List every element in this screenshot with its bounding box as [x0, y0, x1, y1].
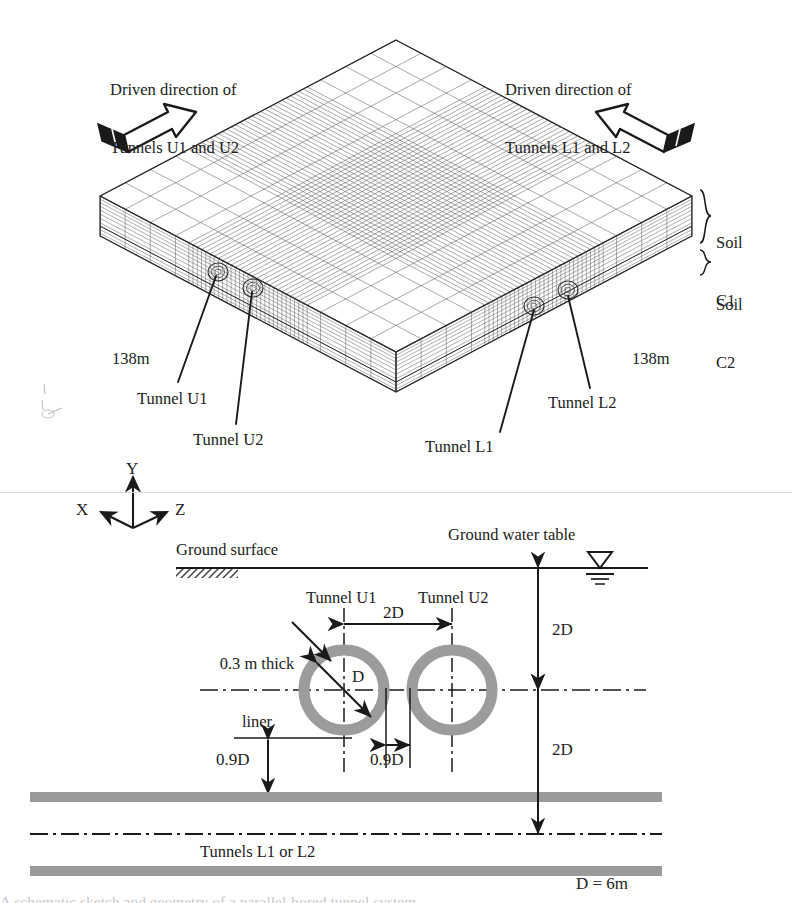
- soil-layer-c2-label: Soil C2: [716, 256, 743, 412]
- ground-surface-label: Ground surface: [176, 540, 278, 559]
- cross-section-view: [0, 500, 792, 900]
- depth-lower-2d-label: 2D: [552, 740, 573, 760]
- tunnel-u1-label: Tunnel U1: [306, 588, 376, 607]
- soil-layer-braces: [700, 190, 711, 275]
- dimension-138m-right: 138m: [632, 349, 670, 368]
- figure-caption: A schematic sketch and geometry of a par…: [0, 893, 792, 903]
- gap-0-9d-label: 0.9D: [370, 750, 404, 770]
- ground-surface-hatch: [176, 569, 238, 578]
- liner-note: 0.3 m thick liner: [198, 615, 316, 771]
- axis-label-y: Y: [126, 459, 138, 479]
- driven-left-line2: Tunnels U1 and U2: [110, 138, 239, 157]
- callout-tunnel-u1: Tunnel U1: [137, 389, 207, 408]
- callout-tunnel-u2: Tunnel U2: [193, 430, 263, 449]
- soil-c1-line1: Soil: [716, 233, 743, 252]
- callout-tunnel-l1: Tunnel L1: [425, 437, 494, 456]
- liner-note-line1: 0.3 m thick: [198, 654, 316, 673]
- driven-right-line2: Tunnels L1 and L2: [505, 138, 631, 157]
- callout-tunnel-l2: Tunnel L2: [548, 393, 617, 412]
- figure-root: Driven direction of Tunnels U1 and U2 Dr…: [0, 0, 792, 903]
- driven-direction-right-label: Driven direction of Tunnels L1 and L2: [505, 41, 631, 197]
- soil-layer-band-upper: [30, 792, 662, 802]
- cover-0-9d-label: 0.9D: [216, 750, 250, 770]
- ground-water-table-label: Ground water table: [448, 525, 575, 544]
- soil-layer-band-lower: [30, 866, 662, 876]
- dimension-138m-left: 138m: [112, 349, 150, 368]
- lower-tunnels-label: Tunnels L1 or L2: [200, 842, 315, 861]
- small-axis-glyph: [42, 384, 62, 418]
- soil-c2-line2: C2: [716, 353, 743, 372]
- driven-right-line1: Driven direction of: [505, 80, 631, 99]
- diameter-value-label: D = 6m: [576, 874, 628, 894]
- spacing-2d-label: 2D: [383, 603, 404, 623]
- section-divider: [0, 492, 792, 493]
- depth-upper-2d-label: 2D: [552, 620, 573, 640]
- soil-c2-line1: Soil: [716, 295, 743, 314]
- driven-left-line1: Driven direction of: [110, 80, 239, 99]
- driven-direction-left-label: Driven direction of Tunnels U1 and U2: [110, 41, 239, 197]
- tunnel-u2-label: Tunnel U2: [418, 588, 488, 607]
- diameter-label: D: [352, 667, 364, 687]
- liner-note-line2: liner: [198, 712, 316, 731]
